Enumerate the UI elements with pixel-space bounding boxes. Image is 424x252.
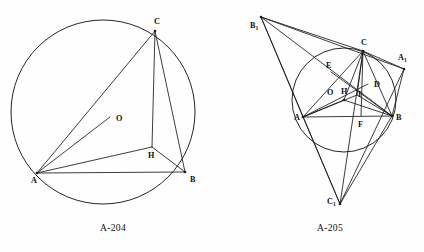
fig-a205: ABCA1B1C1DEFHIOA-205 <box>250 16 407 233</box>
fig-a205-vertex-dot-A <box>302 116 305 119</box>
fig-a205-segment-AB <box>303 116 392 117</box>
fig-a204-segment-AB <box>37 172 185 173</box>
fig-a205-segment-C1A1 <box>340 69 404 204</box>
fig-a204-segment-CH <box>152 31 155 147</box>
fig-a205-point-label-C: C <box>361 38 367 47</box>
fig-a204: ABCHOA-204 <box>11 17 196 233</box>
fig-a205-point-label-B: B <box>396 113 402 122</box>
fig-a205-segment-C1B <box>340 116 392 204</box>
geometry-figures-canvas: ABCHOA-204ABCA1B1C1DEFHIOA-205 <box>0 0 424 252</box>
fig-a205-segment-A1B <box>392 69 404 116</box>
fig-a205-caption: A-205 <box>317 222 343 233</box>
figure-sheet: ABCHOA-204ABCA1B1C1DEFHIOA-205 <box>0 0 424 252</box>
fig-a205-point-label-O: O <box>327 88 333 97</box>
fig-a205-vertex-dot-B <box>391 115 394 118</box>
fig-a205-vertex-dot-C <box>362 50 365 53</box>
fig-a205-point-label-E: E <box>326 61 332 70</box>
fig-a205-point-label-H: H <box>341 87 348 96</box>
fig-a205-segment-C1A <box>303 117 340 204</box>
fig-a204-point-label-B: B <box>190 175 196 184</box>
fig-a204-circumcircle <box>11 20 195 204</box>
fig-a205-point-label-F: F <box>358 120 363 129</box>
fig-a205-point-label-A1: A1 <box>398 53 407 63</box>
fig-a205-segment-A1B1 <box>261 17 404 69</box>
fig-a205-segment-B1A <box>261 17 303 117</box>
fig-a205-point-label-B1: B1 <box>250 21 258 31</box>
fig-a205-segment-B1C <box>261 17 363 51</box>
fig-a204-point-label-A: A <box>31 176 37 185</box>
fig-a205-vertex-dot-A1 <box>403 68 406 71</box>
fig-a204-point-label-H: H <box>148 151 155 160</box>
fig-a205-point-label-I: I <box>358 90 361 99</box>
fig-a205-segment-BO <box>344 100 392 116</box>
fig-a204-point-label-O: O <box>116 114 122 123</box>
fig-a204-segment-BC <box>155 31 185 172</box>
fig-a205-vertex-dot-B1 <box>260 16 263 19</box>
fig-a205-point-label-A: A <box>294 113 300 122</box>
fig-a205-point-label-D: D <box>374 80 380 89</box>
fig-a204-point-label-C: C <box>154 17 160 26</box>
fig-a205-point-label-C1: C1 <box>327 197 336 207</box>
fig-a205-segment-AI <box>303 95 357 117</box>
fig-a204-vertex-dot-A <box>36 172 39 175</box>
fig-a205-segment-CA <box>303 51 363 117</box>
fig-a204-segment-AC <box>37 31 155 173</box>
fig-a204-vertex-dot-B <box>184 171 187 174</box>
fig-a204-vertex-dot-C <box>154 30 157 33</box>
fig-a204-caption: A-204 <box>100 222 126 233</box>
fig-a205-vertex-dot-C1 <box>339 203 342 206</box>
fig-a205-vertex-dot-O <box>343 99 346 102</box>
